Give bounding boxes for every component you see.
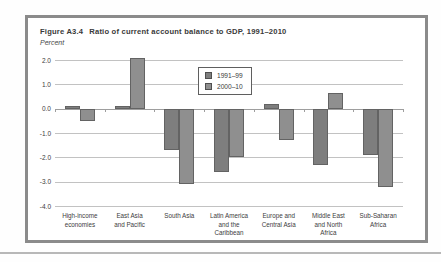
bar-1991–99-cat1: [115, 106, 130, 108]
y-tick-label: 1.0: [31, 81, 51, 88]
x-category-label: High-income economies: [52, 212, 108, 229]
legend-entry-2000-10: 2000–10: [205, 83, 243, 90]
legend-swatch-1991-99: [205, 72, 212, 79]
y-tick-label: -2.0: [31, 154, 51, 161]
bar-1991–99-cat5: [313, 109, 328, 165]
x-axis-tick: [105, 109, 106, 112]
legend-label-1991-99: 1991–99: [217, 72, 243, 79]
legend-entry-1991-99: 1991–99: [205, 72, 243, 79]
x-axis-tick: [304, 109, 305, 112]
bar-1991–99-cat4: [264, 104, 279, 109]
bar-1991–99-cat3: [214, 109, 229, 172]
figure-number-label: Figure A3.4: [40, 27, 83, 36]
bar-1991–99-cat2: [164, 109, 179, 150]
x-category-label: East Asia and Pacific: [102, 212, 158, 229]
gridline: [55, 60, 403, 61]
chart-legend: 1991–99 2000–10: [198, 67, 252, 95]
x-axis-tick: [154, 109, 155, 112]
legend-swatch-2000-10: [205, 83, 212, 90]
bar-2000–10-cat4: [279, 109, 294, 141]
x-category-label: South Asia: [151, 212, 207, 221]
gridline: [55, 182, 403, 183]
bar-2000–10-cat5: [328, 93, 343, 109]
x-axis-tick: [55, 109, 56, 112]
y-tick-label: -4.0: [31, 203, 51, 210]
x-category-label: Sub-Saharan Africa: [350, 212, 406, 229]
y-axis-units-label: Percent: [40, 39, 64, 46]
bar-2000–10-cat3: [229, 109, 244, 158]
bar-1991–99-cat6: [363, 109, 378, 155]
bar-2000–10-cat6: [378, 109, 393, 187]
bar-2000–10-cat1: [130, 58, 145, 109]
bottom-separator-line: [0, 252, 441, 254]
y-tick-label: -3.0: [31, 178, 51, 185]
y-tick-label: 2.0: [31, 57, 51, 64]
x-axis-tick: [254, 109, 255, 112]
x-axis-tick: [403, 109, 404, 112]
figure-title-text: Ratio of current account balance to GDP,…: [89, 27, 286, 36]
x-category-label: Latin America and the Caribbean: [201, 212, 257, 238]
bar-1991–99-cat0: [65, 106, 80, 108]
bar-2000–10-cat0: [80, 109, 95, 121]
x-category-label: Middle East and North Africa: [301, 212, 357, 238]
gridline: [55, 157, 403, 158]
x-category-label: Europe and Central Asia: [251, 212, 307, 229]
figure-title: Figure A3.4Ratio of current account bala…: [40, 27, 420, 36]
x-axis-tick: [353, 109, 354, 112]
y-tick-label: -1.0: [31, 130, 51, 137]
bar-2000–10-cat2: [179, 109, 194, 184]
gridline: [55, 206, 403, 207]
x-axis-tick: [204, 109, 205, 112]
y-tick-label: 0.0: [31, 105, 51, 112]
legend-label-2000-10: 2000–10: [217, 83, 243, 90]
